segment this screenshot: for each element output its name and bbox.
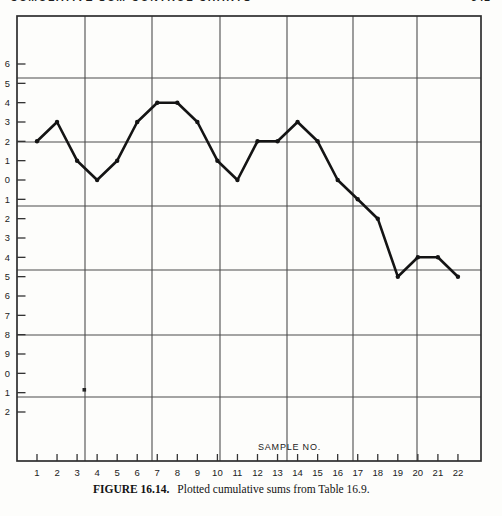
data-point <box>255 139 259 143</box>
x-tick-label: 12 <box>252 467 263 478</box>
data-point <box>75 159 79 163</box>
x-tick-label: 8 <box>175 467 180 478</box>
figure-caption: FIGURE 16.14.Plotted cumulative sums fro… <box>93 483 493 495</box>
x-tick-label: 5 <box>115 467 120 478</box>
data-point <box>155 101 159 105</box>
y-tick-label: 8 <box>5 330 10 340</box>
x-tick-label: 18 <box>372 467 383 478</box>
data-point <box>356 197 360 201</box>
x-tick-label: 7 <box>155 467 160 478</box>
data-point <box>55 120 59 124</box>
y-tick-label: 4 <box>5 253 10 263</box>
y-tick-label: 7 <box>5 311 10 321</box>
plot-border <box>17 16 481 461</box>
data-point <box>436 255 440 259</box>
y-tick-label: 6 <box>5 59 10 69</box>
y-tick-label: 3 <box>5 233 10 243</box>
data-point <box>115 159 119 163</box>
data-point <box>416 255 420 259</box>
y-tick-label: 2 <box>5 214 10 224</box>
x-tick-label: 6 <box>135 467 140 478</box>
x-tick-label: 13 <box>272 467 283 478</box>
data-point <box>456 275 460 279</box>
data-point <box>195 120 199 124</box>
cusum-chart: 6543210123456789012123456789101112131415… <box>0 0 502 480</box>
x-tick-label: 15 <box>312 467 323 478</box>
x-tick-label: 2 <box>54 467 59 478</box>
x-tick-label: 16 <box>332 467 343 478</box>
scanned-book-page: CUMULATIVE SUM CONTROL CHARTS 541 654321… <box>0 0 502 516</box>
y-tick-label: 0 <box>5 175 10 185</box>
figure-caption-label: FIGURE 16.14. <box>93 483 169 495</box>
x-tick-label: 14 <box>292 467 303 478</box>
y-tick-label: 0 <box>5 369 10 379</box>
data-point <box>135 120 139 124</box>
x-tick-label: 1 <box>34 467 39 478</box>
x-tick-label: 10 <box>212 467 223 478</box>
y-tick-label: 6 <box>5 291 10 301</box>
x-tick-label: 11 <box>233 467 243 478</box>
y-tick-label: 2 <box>5 407 10 417</box>
x-tick-label: 3 <box>74 467 79 478</box>
figure-caption-text: Plotted cumulative sums from Table 16.9. <box>177 483 369 495</box>
x-tick-label: 21 <box>433 467 444 478</box>
data-point <box>315 139 319 143</box>
y-tick-label: 1 <box>5 156 10 166</box>
cusum-line <box>37 103 458 277</box>
y-tick-label: 9 <box>5 349 10 359</box>
data-point <box>335 178 339 182</box>
y-tick-label: 3 <box>5 117 10 127</box>
data-point <box>95 178 99 182</box>
x-tick-label: 9 <box>195 467 200 478</box>
scan-speck <box>83 388 87 392</box>
data-point <box>215 159 219 163</box>
y-tick-label: 5 <box>5 272 10 282</box>
data-point <box>35 139 39 143</box>
data-point <box>396 275 400 279</box>
y-tick-label: 4 <box>5 98 10 108</box>
y-tick-label: 1 <box>5 195 10 205</box>
x-tick-label: 4 <box>94 467 99 478</box>
data-point <box>275 139 279 143</box>
data-point <box>295 120 299 124</box>
y-tick-label: 5 <box>5 79 10 89</box>
data-point <box>376 217 380 221</box>
x-tick-label: 17 <box>352 467 363 478</box>
x-axis-title: SAMPLE NO. <box>258 442 321 452</box>
data-point <box>175 101 179 105</box>
y-tick-label: 1 <box>5 388 10 398</box>
x-tick-label: 19 <box>393 467 404 478</box>
data-point <box>235 178 239 182</box>
x-tick-label: 22 <box>453 467 464 478</box>
x-tick-label: 20 <box>413 467 424 478</box>
y-tick-label: 2 <box>5 137 10 147</box>
